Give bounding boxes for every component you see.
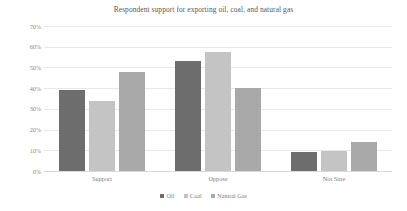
bar-natural-gas-oppose[interactable] xyxy=(235,88,261,171)
y-axis-tick-label: 60% xyxy=(1,43,41,50)
y-axis-tick-label: 30% xyxy=(1,105,41,112)
legend-label: Coal xyxy=(190,192,202,199)
plot-area xyxy=(44,26,392,172)
y-axis-tick-label: 50% xyxy=(1,64,41,71)
y-axis-tick-label: 10% xyxy=(1,147,41,154)
bar-group xyxy=(175,26,261,172)
legend-swatch-icon xyxy=(211,194,215,198)
bar-coal-not-sure[interactable] xyxy=(321,151,347,171)
legend-item-coal[interactable]: Coal xyxy=(184,192,202,199)
bar-natural-gas-support[interactable] xyxy=(119,72,145,171)
legend-label: Natural Gas xyxy=(217,192,247,199)
y-axis-tick-labels: 0%10%20%30%40%50%60%70% xyxy=(0,26,41,172)
legend-item-oil[interactable]: Oil xyxy=(160,192,174,199)
y-axis-tick-label: 40% xyxy=(1,85,41,92)
x-axis-tick-label: Oppose xyxy=(160,175,276,182)
legend-swatch-icon xyxy=(160,194,164,198)
chart-title: Respondent support for exporting oil, co… xyxy=(0,5,407,14)
bar-coal-oppose[interactable] xyxy=(205,52,231,171)
bar-oil-oppose[interactable] xyxy=(175,61,201,171)
bar-chart-figure: Respondent support for exporting oil, co… xyxy=(0,0,407,211)
x-axis-tick-label: Not Sure xyxy=(276,175,392,182)
y-axis-tick-label: 0% xyxy=(1,168,41,175)
bar-oil-not-sure[interactable] xyxy=(291,152,317,171)
legend-label: Oil xyxy=(167,192,175,199)
bar-coal-support[interactable] xyxy=(89,101,115,171)
bar-group xyxy=(59,26,145,172)
bar-group xyxy=(291,26,377,172)
bar-oil-support[interactable] xyxy=(59,90,85,171)
legend-swatch-icon xyxy=(184,194,188,198)
y-axis-tick-label: 70% xyxy=(1,23,41,30)
chart-legend: OilCoalNatural Gas xyxy=(0,192,407,199)
x-axis-tick-label: Support xyxy=(44,175,160,182)
y-axis-tick-label: 20% xyxy=(1,126,41,133)
bar-natural-gas-not-sure[interactable] xyxy=(351,142,377,171)
legend-item-natural-gas[interactable]: Natural Gas xyxy=(211,192,247,199)
